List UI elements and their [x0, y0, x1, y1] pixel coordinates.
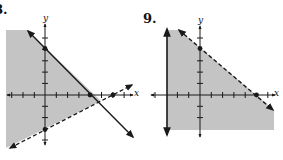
y-axis-label: y: [198, 15, 203, 25]
intercept-point: [254, 93, 259, 98]
intercept-point: [111, 93, 116, 98]
graph-8-plot: [0, 0, 141, 160]
x-axis-label: x: [274, 88, 279, 98]
intercept-point: [43, 46, 48, 51]
graph-9: 9.: [141, 0, 283, 160]
y-axis-label: y: [43, 13, 48, 23]
intercept-point: [198, 46, 203, 51]
graph-8: 8.: [0, 0, 141, 160]
x-axis-label: x: [134, 88, 139, 98]
intercept-point: [88, 93, 93, 98]
intercept-point: [43, 127, 48, 132]
shaded-region: [6, 30, 101, 148]
graph-9-plot: [141, 0, 283, 160]
shaded-region: [167, 30, 274, 130]
